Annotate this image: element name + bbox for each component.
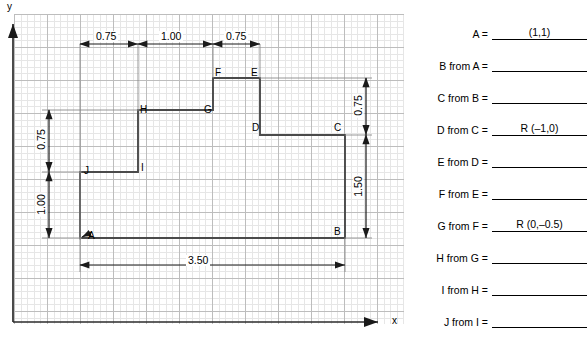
vertex-label-i: I bbox=[141, 163, 144, 173]
worksheet-page: y x A B C D E F G H I J 0.75 1.00 0.75 3… bbox=[0, 0, 587, 338]
answer-label-a: A = bbox=[404, 28, 492, 40]
dimension-lines bbox=[49, 44, 366, 265]
answer-row-d-from-c: D from C = R (–1,0) bbox=[404, 114, 587, 136]
coordinate-figure: y x A B C D E F G H I J 0.75 1.00 0.75 3… bbox=[0, 0, 400, 338]
answer-label-b-from-a: B from A = bbox=[404, 60, 492, 72]
vertex-label-b: B bbox=[334, 227, 341, 237]
answer-value-d-from-c: R (–1,0) bbox=[492, 122, 587, 134]
answer-row-b-from-a: B from A = bbox=[404, 50, 587, 72]
answer-row-c-from-b: C from B = bbox=[404, 82, 587, 104]
answer-blank-c-from-b[interactable] bbox=[492, 87, 587, 104]
answer-panel: A = (1,1) B from A = C from B = D from C… bbox=[404, 0, 587, 338]
answer-label-e-from-d: E from D = bbox=[404, 156, 492, 168]
x-axis-label: x bbox=[392, 316, 397, 326]
answer-row-i-from-h: I from H = bbox=[404, 274, 587, 296]
answer-blank-b-from-a[interactable] bbox=[492, 55, 587, 72]
answer-blank-h-from-g[interactable] bbox=[492, 247, 587, 264]
dim-label-right-upper: 0.75 bbox=[353, 93, 364, 117]
dim-label-left-lower: 1.00 bbox=[36, 192, 47, 216]
answer-row-e-from-d: E from D = bbox=[404, 146, 587, 168]
answer-row-g-from-f: G from F = R (0,–0.5) bbox=[404, 210, 587, 232]
answer-label-g-from-f: G from F = bbox=[404, 220, 492, 232]
answer-row-a: A = (1,1) bbox=[404, 18, 587, 40]
vertex-label-d: D bbox=[252, 123, 259, 133]
answer-label-f-from-e: F from E = bbox=[404, 188, 492, 200]
answer-value-g-from-f: R (0,–0.5) bbox=[492, 218, 587, 230]
answer-row-h-from-g: H from G = bbox=[404, 242, 587, 264]
answer-value-a: (1,1) bbox=[492, 26, 587, 38]
answer-row-f-from-e: F from E = bbox=[404, 178, 587, 200]
vertex-label-j: J bbox=[84, 166, 89, 176]
dim-label-top-left: 0.75 bbox=[94, 31, 118, 42]
answer-blank-a[interactable]: (1,1) bbox=[492, 23, 587, 40]
answer-label-c-from-b: C from B = bbox=[404, 92, 492, 104]
figure-vector-layer bbox=[0, 0, 400, 338]
answer-blank-e-from-d[interactable] bbox=[492, 151, 587, 168]
dim-label-right-lower: 1.50 bbox=[353, 174, 364, 198]
dim-label-left-upper: 0.75 bbox=[36, 127, 47, 151]
vertex-label-f: F bbox=[215, 68, 221, 78]
vertex-label-c: C bbox=[334, 123, 341, 133]
dim-label-bottom: 3.50 bbox=[186, 255, 210, 266]
answer-label-j-from-i: J from I = bbox=[404, 316, 492, 328]
answer-row-j-from-i: J from I = bbox=[404, 306, 587, 328]
staircase-polygon bbox=[80, 78, 345, 238]
dim-label-top-middle: 1.00 bbox=[159, 31, 183, 42]
answer-blank-d-from-c[interactable]: R (–1,0) bbox=[492, 119, 587, 136]
answer-blank-j-from-i[interactable] bbox=[492, 311, 587, 328]
answer-label-d-from-c: D from C = bbox=[404, 124, 492, 136]
answer-label-i-from-h: I from H = bbox=[404, 284, 492, 296]
vertex-label-e: E bbox=[251, 68, 258, 78]
dim-label-top-right: 0.75 bbox=[224, 31, 248, 42]
answer-label-h-from-g: H from G = bbox=[404, 252, 492, 264]
vertex-label-g: G bbox=[204, 105, 212, 115]
answer-blank-g-from-f[interactable]: R (0,–0.5) bbox=[492, 215, 587, 232]
vertex-label-a: A bbox=[88, 231, 95, 241]
answer-blank-f-from-e[interactable] bbox=[492, 183, 587, 200]
y-axis-label: y bbox=[7, 2, 12, 12]
answer-blank-i-from-h[interactable] bbox=[492, 279, 587, 296]
vertex-label-h: H bbox=[140, 105, 147, 115]
